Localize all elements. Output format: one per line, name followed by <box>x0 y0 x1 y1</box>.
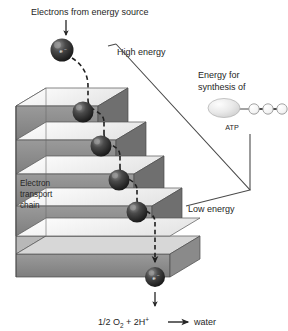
step-5-top-face <box>16 218 200 236</box>
electron-sphere-step-2 <box>91 136 112 157</box>
electron-transport-chain-label-line-3: chain <box>20 201 40 210</box>
electron-sphere-exit: e – <box>145 267 165 287</box>
electron-transport-chain-figure: e – e – <box>0 0 288 331</box>
electrons-from-energy-source-label: Electrons from energy source <box>31 7 149 17</box>
electron-sphere-exit-label: e <box>152 275 155 281</box>
electron-sphere-step-3 <box>109 170 130 191</box>
atp-molecule: ATP <box>208 99 287 133</box>
electron-sphere-step-4 <box>127 202 148 223</box>
electron-sphere-source-label: e <box>60 48 63 54</box>
high-energy-label: High energy <box>117 47 166 57</box>
atp-phosphate-1 <box>249 104 259 114</box>
electron-transport-chain-label-line-1: Electron <box>20 179 50 188</box>
terminal-reaction-equation: 1/2 O2 + 2H+ water <box>98 316 216 329</box>
atp-adenosine-oval <box>208 99 240 118</box>
atp-label: ATP <box>225 123 239 132</box>
equation-coefficient: 1/2 O <box>98 317 120 327</box>
equation-product-water: water <box>193 317 216 327</box>
atp-phosphate-2 <box>263 104 273 114</box>
electron-sphere-source: e – <box>51 39 74 62</box>
energy-for-synthesis-label-line-1: Energy for <box>198 70 240 80</box>
energy-bracket-upper-arm <box>108 44 116 46</box>
atp-phosphate-3 <box>277 104 287 114</box>
equation-plus-2h: + 2H <box>124 317 146 327</box>
diagram-canvas: e – e – <box>0 0 288 331</box>
electron-sphere-step-1 <box>73 102 94 123</box>
svg-text:1/2 O2 + 2H+: 1/2 O2 + 2H+ <box>98 316 149 329</box>
energy-for-synthesis-label-line-2: synthesis of <box>198 82 246 92</box>
staircase-base-top-face <box>16 236 200 254</box>
low-energy-label: Low energy <box>188 204 235 214</box>
electron-transport-chain-label-line-2: transport <box>20 190 53 199</box>
equation-h-superscript: + <box>145 316 149 323</box>
